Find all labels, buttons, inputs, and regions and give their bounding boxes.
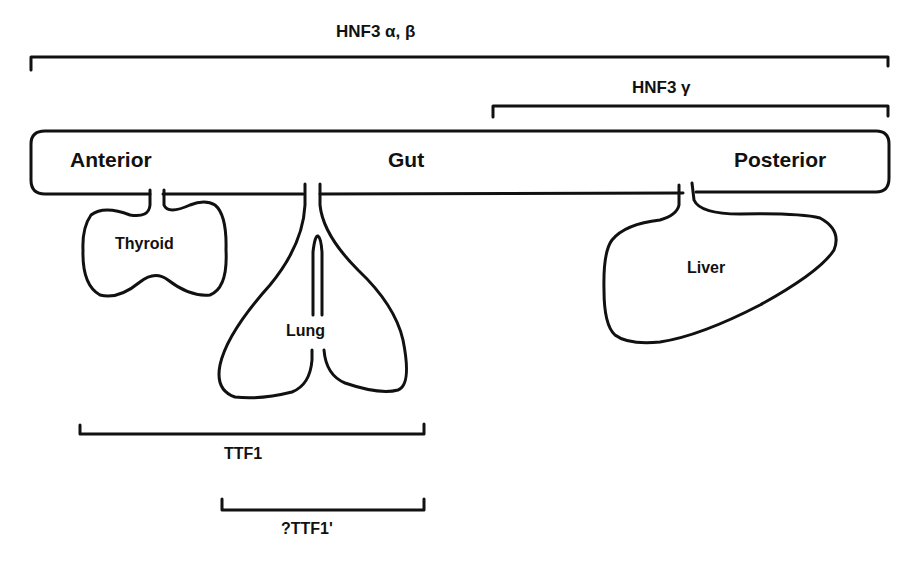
ttf1-label: TTF1 [224, 445, 262, 463]
hnf3-gamma-bracket [493, 106, 888, 117]
gut-label: Gut [388, 148, 424, 172]
hnf3-alpha-beta-label: HNF3 α, β [336, 22, 415, 42]
liver-label: Liver [687, 259, 725, 277]
anterior-label: Anterior [70, 148, 152, 172]
ttf1-prime-bracket [222, 499, 424, 510]
thyroid-label: Thyroid [115, 235, 174, 253]
lung-label: Lung [286, 322, 325, 340]
lung-outline [219, 184, 312, 398]
ttf1-prime-label: ?TTF1' [281, 520, 333, 538]
gut-diagram [0, 0, 917, 563]
gut-tube-bottom-right [320, 193, 683, 194]
hnf3-alpha-beta-bracket [31, 57, 888, 70]
posterior-label: Posterior [734, 148, 826, 172]
hnf3-gamma-label: HNF3 γ [632, 78, 691, 98]
lung-septum [313, 236, 322, 315]
ttf1-bracket [80, 424, 424, 434]
lung-right-lobe [320, 184, 407, 391]
